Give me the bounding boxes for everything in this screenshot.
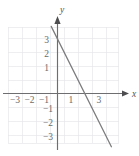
ytick-label-3: 3: [44, 35, 49, 45]
x-axis-arrow-icon: [122, 90, 129, 96]
graph-figure: −3 −2 −1 1 3 3 2 1 −1 −2 −3 y x: [0, 0, 139, 156]
y-axis-arrow-icon: [54, 16, 60, 24]
xtick-label-1: 1: [69, 95, 74, 105]
x-axis-label: x: [131, 89, 137, 99]
xtick-label-neg3: −3: [10, 95, 20, 105]
xtick-label-neg2: −2: [25, 95, 35, 105]
ytick-label-1: 1: [44, 63, 49, 73]
x-axis: [3, 90, 129, 96]
ytick-label-2: 2: [44, 49, 49, 59]
ytick-label-neg3: −3: [43, 132, 53, 142]
coordinate-plane: −3 −2 −1 1 3 3 2 1 −1 −2 −3 y x: [0, 0, 139, 156]
line-series: [51, 26, 111, 146]
ytick-label-neg2: −2: [43, 118, 53, 128]
grid-lines: [8, 27, 119, 144]
y-axis-label: y: [59, 5, 65, 15]
xtick-label-3: 3: [97, 95, 102, 105]
ytick-label-neg1: −1: [43, 104, 53, 114]
y-axis: [54, 16, 60, 150]
